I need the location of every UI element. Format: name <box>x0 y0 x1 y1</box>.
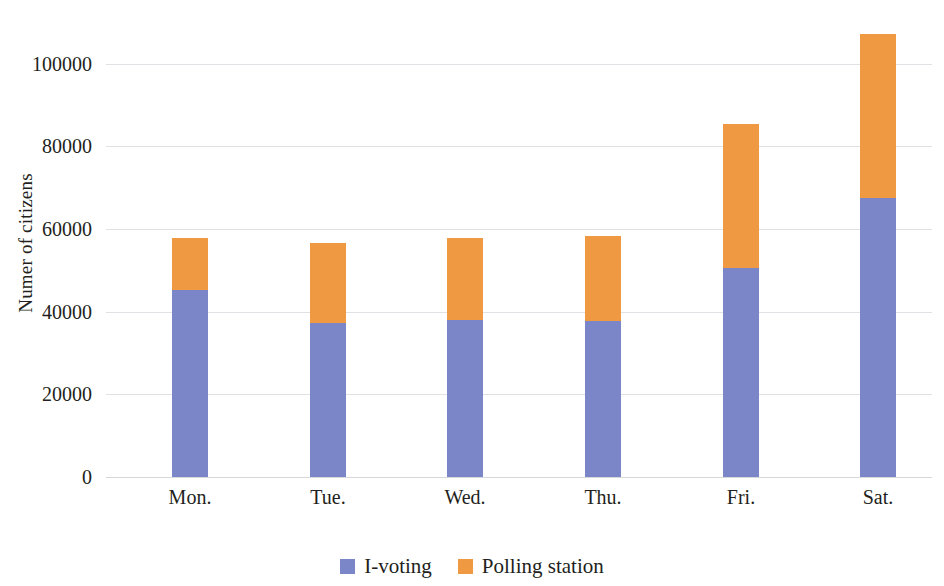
bar-stack[interactable] <box>310 243 346 477</box>
legend-swatch-icon <box>340 559 355 574</box>
legend-label: Polling station <box>482 556 604 577</box>
legend-item[interactable]: Polling station <box>458 556 604 577</box>
bar-stack[interactable] <box>585 236 621 477</box>
chart-legend: I-votingPolling station <box>0 556 944 577</box>
gridline <box>106 394 932 395</box>
axis-baseline <box>106 477 932 478</box>
y-axis-tick-label: 60000 <box>0 219 92 239</box>
x-axis-tick-label: Sat. <box>820 487 936 507</box>
legend-swatch-icon <box>458 559 473 574</box>
gridline <box>106 229 932 230</box>
bar-segment-polling-station[interactable] <box>447 238 483 320</box>
bar-stack[interactable] <box>172 238 208 477</box>
plot-area <box>106 10 932 477</box>
y-axis-tick-label: 40000 <box>0 302 92 322</box>
bar-segment-i-voting[interactable] <box>723 268 759 477</box>
x-axis-tick-label: Wed. <box>407 487 523 507</box>
bar-segment-i-voting[interactable] <box>172 290 208 477</box>
legend-item[interactable]: I-voting <box>340 556 432 577</box>
y-axis-title: Numer of citizens <box>15 133 37 353</box>
gridline <box>106 64 932 65</box>
legend-label: I-voting <box>364 556 432 577</box>
y-axis-tick-label: 100000 <box>0 54 92 74</box>
gridline <box>106 312 932 313</box>
x-axis-tick-label: Tue. <box>270 487 386 507</box>
bar-stack[interactable] <box>860 34 896 477</box>
y-axis-tick-label: 0 <box>0 467 92 487</box>
bar-segment-i-voting[interactable] <box>585 321 621 477</box>
bar-segment-i-voting[interactable] <box>860 198 896 477</box>
bar-segment-i-voting[interactable] <box>447 320 483 477</box>
bar-segment-polling-station[interactable] <box>585 236 621 321</box>
bar-segment-polling-station[interactable] <box>860 34 896 198</box>
bar-segment-polling-station[interactable] <box>723 124 759 269</box>
stacked-bar-chart: Numer of citizens 0200004000060000800001… <box>0 0 944 586</box>
bar-segment-i-voting[interactable] <box>310 323 346 477</box>
gridline <box>106 146 932 147</box>
x-axis-tick-label: Thu. <box>545 487 661 507</box>
y-axis-tick-label: 80000 <box>0 136 92 156</box>
bar-segment-polling-station[interactable] <box>172 238 208 290</box>
x-axis-tick-label: Fri. <box>683 487 799 507</box>
x-axis-tick-label: Mon. <box>132 487 248 507</box>
bar-stack[interactable] <box>447 238 483 477</box>
bar-segment-polling-station[interactable] <box>310 243 346 323</box>
bar-stack[interactable] <box>723 124 759 477</box>
y-axis-tick-label: 20000 <box>0 384 92 404</box>
